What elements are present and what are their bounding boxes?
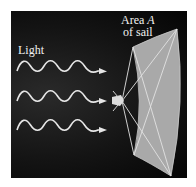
light-wave-1: [17, 61, 101, 72]
spacecraft-icon: [112, 91, 124, 111]
arrowheads: [99, 68, 107, 133]
light-wave-2: [17, 91, 101, 102]
sail-area-label-line2: of sail: [123, 26, 153, 38]
arrow-icon: [99, 68, 107, 74]
light-waves: [17, 61, 101, 131]
solar-sail-illustration: [0, 0, 196, 187]
arrow-icon: [99, 127, 107, 133]
arrow-icon: [99, 98, 107, 104]
light-label: Light: [18, 44, 44, 56]
light-wave-3: [17, 120, 101, 131]
